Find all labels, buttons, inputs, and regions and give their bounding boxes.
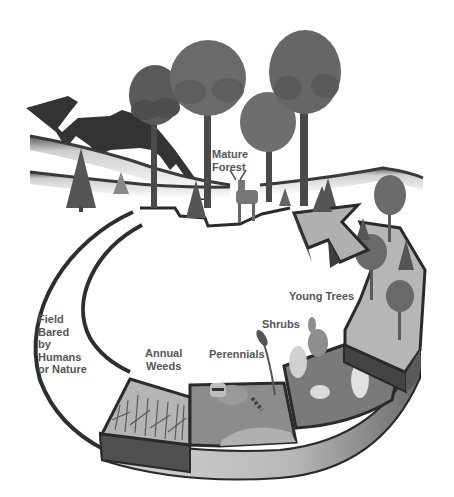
label-perennials: Perennials [209,348,265,361]
diagram-artwork [0,0,454,497]
forest-ground [140,208,290,226]
label-annual-weeds: Annual Weeds [145,347,182,372]
label-mature-forest: Mature Forest [212,148,248,173]
label-shrubs: Shrubs [262,318,300,331]
label-young-trees: Young Trees [289,290,354,303]
succession-diagram: Field Bared by Humans or Nature Annual W… [0,0,454,497]
label-field-bared: Field Bared by Humans or Nature [38,313,87,376]
deer [230,170,258,223]
